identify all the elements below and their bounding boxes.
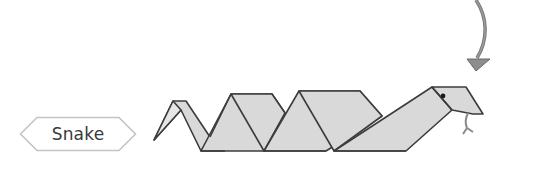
label-tag: Snake <box>19 116 137 152</box>
eye-icon <box>441 94 446 99</box>
tongue-icon <box>463 113 473 134</box>
label-text: Snake <box>19 116 137 152</box>
snake-diagram: Snake <box>0 0 539 175</box>
